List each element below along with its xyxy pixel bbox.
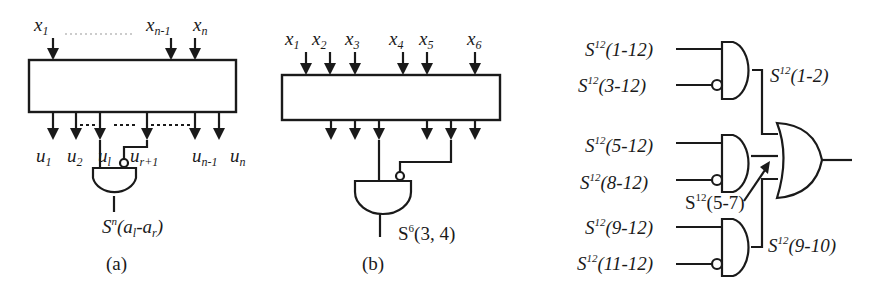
label-x4-b: x4: [388, 28, 403, 52]
label-x1: x1: [33, 14, 48, 38]
outputs-b: [325, 120, 481, 140]
label-s12-5-7: S12(5-7): [685, 191, 745, 214]
label-s12-5-12: S12(5-12): [585, 134, 653, 157]
label-x6-b: x6: [466, 28, 481, 52]
label-un-1: un-1: [192, 145, 218, 169]
inverter-bubble-c2: [712, 175, 722, 185]
and-gate-b: [355, 181, 411, 214]
caption-b: (b): [362, 253, 384, 275]
label-u1: u1: [36, 145, 52, 169]
label-s12-9-12: S12(9-12): [585, 216, 653, 239]
inverter-bubble: [120, 159, 128, 167]
label-s12-1-12: S12(1-12): [585, 38, 653, 61]
inverter-bubble-c3: [712, 259, 722, 269]
caption-a: (a): [106, 253, 127, 275]
gate-a-output-label: Sn(al-ar): [102, 215, 163, 240]
label-un: un: [230, 145, 246, 169]
label-s12-9-10: S12(9-10): [768, 234, 836, 257]
inputs-b: [300, 52, 481, 75]
wire-x5-gate: [400, 140, 451, 173]
label-s12-8-12: S12(8-12): [580, 171, 648, 194]
block-b: [282, 75, 500, 120]
panel-b: x1 x2 x3 x4 x5 x6 S6(3, 4) (b): [282, 28, 500, 275]
panel-c: S12(1-12) S12(3-12) S12(5-12) S12(8-12) …: [577, 38, 852, 276]
label-xn: xn: [192, 14, 207, 38]
label-s12-1-2: S12(1-2): [770, 64, 828, 87]
label-x1-b: x1: [284, 28, 299, 52]
and-gate-a: [93, 168, 136, 192]
block-a: [29, 60, 236, 112]
label-x2-b: x2: [311, 28, 326, 52]
label-s12-11-12: S12(11-12): [577, 252, 653, 275]
label-xn-1: xn-1: [145, 14, 170, 38]
label-ur1: ur+1: [130, 145, 158, 169]
inverter-bubble-b: [396, 172, 404, 180]
logic-diagram: x1 xn-1 xn u1 u2 ul ur+1 un-1 u: [0, 0, 875, 282]
label-x3-b: x3: [344, 28, 359, 52]
and-gate-c2: [722, 135, 748, 192]
outputs-a: [47, 112, 225, 140]
inverter-bubble-c1: [712, 80, 722, 90]
and-gate-c3: [722, 219, 748, 276]
and-gate-c1: [722, 42, 748, 99]
panel-a: x1 xn-1 xn u1 u2 ul ur+1 un-1 u: [29, 14, 246, 275]
label-x5-b: x5: [418, 28, 433, 52]
or-gate-c: [777, 123, 822, 198]
label-s12-3-12: S12(3-12): [578, 74, 646, 97]
gate-b-output-label: S6(3, 4): [398, 222, 455, 245]
label-u2: u2: [67, 145, 83, 169]
